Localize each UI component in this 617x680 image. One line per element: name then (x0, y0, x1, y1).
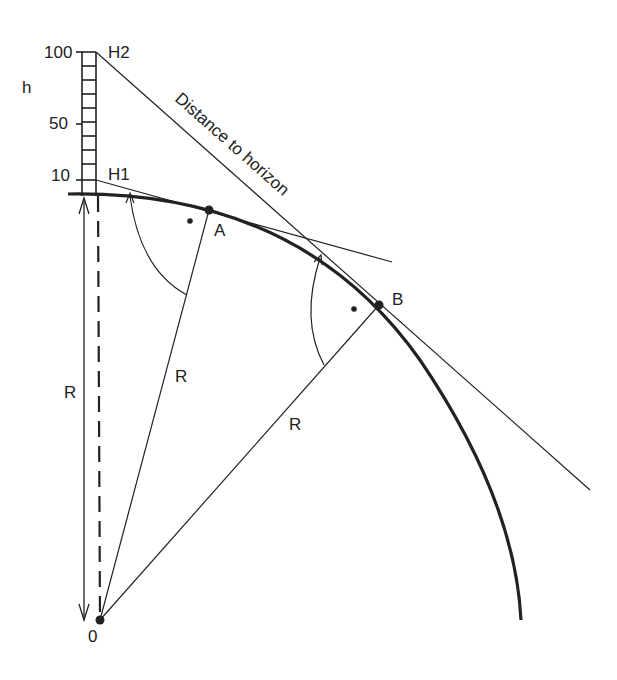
horizon-diagram: 100 50 10 h H2 H1 A B 0 R R R Distance t… (0, 0, 617, 680)
right-angle-dot-b (351, 306, 357, 312)
point-a-label: A (214, 221, 226, 240)
radius-vertical-label: R (64, 383, 76, 402)
point-a (205, 206, 214, 215)
ruler-tick-10-label: 10 (51, 166, 70, 185)
ruler-tick-100-label: 100 (44, 43, 72, 62)
distance-to-horizon-label: Distance to horizon (171, 89, 293, 200)
height-axis-label: h (22, 78, 31, 97)
angle-arc-b (311, 258, 324, 365)
height-ruler (76, 52, 96, 196)
ruler-tick-50-label: 50 (49, 114, 68, 133)
point-h2-label: H2 (108, 43, 130, 62)
point-b (375, 301, 384, 310)
vertical-radius-arrow (79, 198, 89, 620)
radius-a-label: R (175, 367, 187, 386)
earth-surface-arc (68, 194, 521, 620)
radius-b-label: R (289, 415, 301, 434)
point-o-label: 0 (88, 627, 97, 646)
tangent-line-h2 (96, 52, 590, 490)
point-b-label: B (392, 290, 403, 309)
angle-arc-a (130, 196, 187, 295)
point-o (96, 616, 105, 625)
tangent-line-h1 (96, 180, 392, 262)
right-angle-dot-a (187, 218, 193, 224)
dashed-vertical-line (98, 196, 100, 620)
point-h1-label: H1 (108, 165, 130, 184)
